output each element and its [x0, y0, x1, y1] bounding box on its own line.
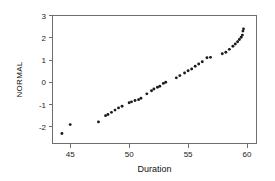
data-point — [110, 111, 113, 114]
data-point — [150, 89, 153, 92]
data-point — [145, 92, 148, 95]
data-point — [241, 34, 244, 37]
data-point — [187, 69, 190, 72]
data-point — [130, 100, 133, 103]
y-tick-label: 2 — [42, 34, 47, 43]
data-point — [178, 74, 181, 77]
y-axis-title: NORMAL — [15, 61, 24, 97]
data-point — [183, 71, 186, 74]
data-point — [134, 99, 137, 102]
data-point — [69, 123, 72, 126]
data-point — [228, 48, 231, 51]
x-tick-label: 50 — [125, 150, 134, 159]
data-point — [164, 81, 167, 84]
data-point — [121, 105, 124, 108]
y-tick-label: 1 — [42, 56, 47, 65]
plot-frame — [53, 16, 257, 144]
chart-svg: -2-10123 45505560 Duration NORMAL — [0, 0, 275, 181]
data-point — [60, 132, 63, 135]
y-tick-label: -2 — [39, 123, 47, 132]
normal-qq-plot: -2-10123 45505560 Duration NORMAL — [0, 0, 275, 181]
data-point — [175, 76, 178, 79]
data-point — [206, 56, 209, 59]
x-axis-ticks: 45505560 — [66, 144, 252, 159]
data-point — [97, 120, 100, 123]
y-tick-label: 3 — [42, 12, 47, 21]
x-tick-label: 55 — [184, 150, 193, 159]
data-point — [242, 27, 245, 30]
data-point — [224, 51, 227, 54]
data-point — [139, 97, 142, 100]
data-point — [221, 52, 224, 55]
data-point — [117, 106, 120, 109]
data-point — [231, 45, 234, 48]
data-point — [158, 85, 161, 88]
data-point — [152, 88, 155, 91]
data-point — [234, 43, 237, 46]
data-points-layer — [60, 27, 245, 135]
plot-frame-border — [53, 16, 257, 144]
data-point — [201, 60, 204, 63]
data-point — [190, 67, 193, 70]
y-axis-ticks: -2-10123 — [39, 12, 53, 132]
data-point — [114, 109, 117, 112]
x-axis-title: Duration — [137, 164, 171, 174]
data-point — [194, 65, 197, 68]
y-tick-label: -1 — [39, 101, 47, 110]
data-point — [197, 63, 200, 66]
y-tick-label: 0 — [42, 78, 47, 87]
x-tick-label: 60 — [243, 150, 252, 159]
data-point — [106, 113, 109, 116]
x-tick-label: 45 — [66, 150, 75, 159]
data-point — [209, 56, 212, 59]
